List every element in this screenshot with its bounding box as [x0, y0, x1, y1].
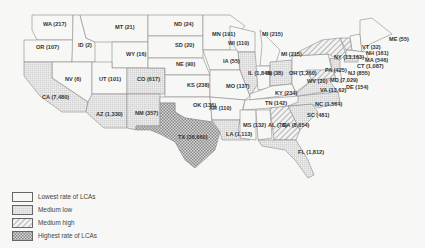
label-ar: AR (110): [209, 106, 231, 112]
label-sc: SC (481): [307, 113, 329, 119]
label-wv: WV (20): [307, 79, 328, 85]
label-fl: FL (1,812): [298, 150, 324, 156]
label-ia: IA (55): [223, 59, 240, 65]
label-co: CO (617): [137, 77, 160, 83]
label-nj: NJ (855): [348, 71, 370, 77]
label-wi: WI (110): [228, 41, 249, 47]
legend-item-highest: Highest rate of LCAs: [12, 230, 97, 241]
label-id: ID (2): [78, 43, 92, 49]
legend-item-medium-low: Medium low: [12, 204, 97, 215]
legend-label: Medium high: [38, 219, 75, 226]
label-wy: WY (16): [126, 52, 146, 58]
label-nv: NV (6): [65, 77, 81, 83]
label-az: AZ (1,330): [96, 112, 123, 118]
legend-swatch-medium-low: [12, 205, 33, 215]
label-ma: MA (546): [365, 58, 388, 64]
legend-swatch-medium-high: [12, 218, 33, 228]
state-wi: [230, 26, 255, 52]
legend-label: Lowest rate of LCAs: [38, 193, 96, 200]
legend-item-lowest: Lowest rate of LCAs: [12, 191, 97, 202]
label-ga: GA (8,654): [282, 123, 309, 129]
lca-choropleth-map: WA (217) OR (107) ID (2) MT (21) WY (16)…: [0, 0, 425, 248]
label-ny: NY (13,163): [334, 55, 364, 61]
legend-item-medium-high: Medium high: [12, 217, 97, 228]
legend-label: Highest rate of LCAs: [38, 232, 97, 239]
label-la: LA (1,113): [226, 132, 252, 138]
legend-swatch-lowest: [12, 192, 33, 202]
label-tn: TN (142): [265, 101, 287, 107]
label-mn: MN (191): [212, 32, 235, 38]
label-nc: NC (1,564): [315, 102, 342, 108]
label-in: IN (38): [266, 71, 283, 77]
label-me: ME (55): [389, 37, 409, 43]
label-tx: TX (36,660): [178, 135, 208, 141]
legend-swatch-highest: [12, 231, 33, 241]
label-wa: WA (217): [43, 22, 66, 28]
label-nh: NH (161): [366, 51, 389, 57]
label-mt: MT (21): [115, 25, 135, 31]
label-ct: CT (1,087): [357, 64, 384, 70]
label-or: OR (107): [36, 45, 59, 51]
state-mt: [80, 15, 148, 42]
label-ne: NE (90): [176, 62, 195, 68]
label-md: MD (7,029): [330, 78, 358, 84]
label-sd: SD (20): [175, 43, 194, 49]
map-legend: Lowest rate of LCAs Medium low Medium hi…: [12, 191, 97, 243]
label-pa: PA (425): [325, 68, 347, 74]
label-ky: KY (234): [275, 91, 297, 97]
label-ms: MS (132): [243, 123, 266, 129]
label-ut: UT (101): [99, 77, 121, 83]
state-fl: [258, 140, 314, 178]
label-mi-up: MI (215): [262, 32, 283, 38]
label-mo: MO (137): [226, 84, 250, 90]
label-ks: KS (238): [187, 83, 209, 89]
label-va: VA (13,62): [320, 88, 346, 94]
label-ca: CA (7,480): [42, 95, 69, 101]
label-nm: NM (357): [135, 111, 158, 117]
legend-label: Medium low: [38, 206, 72, 213]
label-nd: ND (24): [174, 22, 194, 28]
label-mi: MI (215): [281, 52, 302, 58]
label-oh: OH (1,260): [289, 71, 317, 77]
label-de: DE (154): [346, 85, 368, 91]
